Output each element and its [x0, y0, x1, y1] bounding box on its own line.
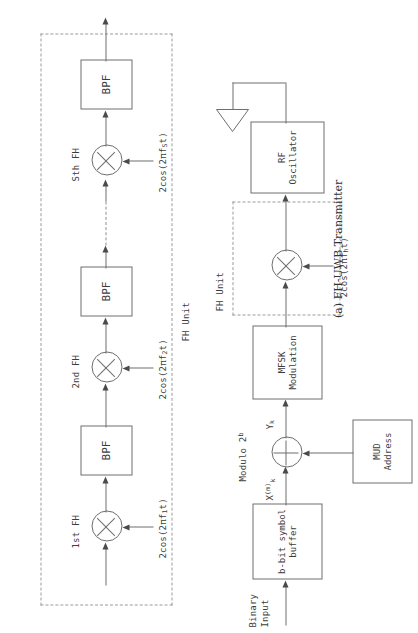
antenna-icon: [214, 105, 250, 133]
rf-to-antenna-wire-v: [232, 82, 286, 83]
fh-stage-1-lo-wire: [127, 526, 153, 527]
fh-stage-s-lo-wire: [127, 160, 153, 161]
mfsk-label-line2: Modulation: [287, 335, 298, 389]
buffer-label-line2: buffer: [287, 525, 298, 558]
los-suffix: t): [157, 132, 167, 143]
rf-to-antenna-wire-h: [285, 83, 286, 123]
fh-stage-1-to-2-arrowhead: [102, 383, 108, 390]
fh-stage-s-to-bpf-arrowhead: [102, 110, 108, 117]
fh-stage-s-name: Sth FH: [70, 147, 80, 181]
fh-stage-s-bpf-block: BPF: [80, 59, 132, 109]
binary-input-label-line2: Input: [259, 599, 269, 627]
los-pi: π: [157, 153, 167, 159]
fh-unit-big-title: FH Unit: [180, 302, 190, 341]
los-f: f: [157, 147, 167, 153]
lo1-f: f: [157, 513, 167, 519]
yk-base: Y: [264, 423, 274, 429]
los-prefix: 2cos(2: [157, 158, 167, 192]
binary-input-wire: [285, 585, 286, 625]
buffer-to-adder-wire: [285, 469, 286, 505]
lo2-pi: π: [157, 360, 167, 366]
fh-stage-1-to-bpf-arrowhead: [102, 476, 108, 483]
fh-stage-2-bpf-block: BPF: [80, 266, 132, 316]
modulo-text: Modulo 2: [237, 436, 247, 481]
mud-to-adder-arrowhead: [302, 450, 309, 456]
rf-label-line1: RF: [276, 152, 287, 163]
adder-plus-vertical: [273, 452, 298, 453]
fh-stage-s-lo-arrowhead: [122, 158, 129, 164]
diagram-canvas: Binary Input b-bit symbol buffer X(m)k M…: [0, 0, 418, 633]
mixer-to-rf-wire: [285, 199, 286, 251]
fh-stage-1-name: 1st FH: [70, 514, 80, 548]
figure-caption: (a) FH-UWB Transmitter: [332, 180, 345, 318]
lo1-suffix: t): [157, 498, 167, 509]
signal-xk-label: X(m)k: [263, 478, 276, 500]
fh-stage-s-to-bpf-wire: [105, 114, 106, 146]
fh-ellipsis-arrowhead-left: [102, 245, 108, 252]
mud-label-line1: MUD: [371, 443, 382, 459]
fh-stage-1-lo-label: 2cos(2πf1t): [157, 498, 169, 558]
lo1-pi: π: [157, 519, 167, 525]
b-bit-symbol-buffer-block: b-bit symbol buffer: [252, 503, 322, 579]
rotated-figure-container: Binary Input b-bit symbol buffer X(m)k M…: [0, 0, 418, 633]
fh-stage-2-to-bpf-arrowhead: [102, 317, 108, 324]
fh-ellipsis-wire-left: [105, 250, 106, 268]
figure-page: Binary Input b-bit symbol buffer X(m)k M…: [0, 0, 418, 633]
fh-stage-2-to-bpf-wire: [105, 321, 106, 353]
lo1-prefix: 2cos(2: [157, 524, 167, 558]
buffer-label-line1: b-bit symbol: [276, 508, 287, 573]
fh-stage-continuation-dashes: [105, 201, 106, 245]
binary-input-label-line1: Binary: [247, 593, 257, 627]
fh-stage-1-to-bpf-wire: [105, 480, 106, 512]
xk-sup: (m): [263, 482, 271, 494]
fh-chain-input-arrowhead: [102, 542, 108, 549]
fh-stage-1-to-2-wire: [105, 387, 106, 427]
modulo-adder-label: Modulo 2b: [236, 432, 247, 481]
fh-stage-2-name: 2nd FH: [70, 354, 80, 388]
binary-input-arrowhead: [282, 580, 288, 587]
fh-chain-output-wire: [105, 21, 106, 61]
fh-stage-2-lo-label: 2cos(2πf2t): [157, 339, 169, 399]
mud-address-block: MUD Address: [352, 419, 412, 483]
lo2-sub: 2: [161, 350, 169, 354]
xk-base: X: [264, 494, 274, 500]
fh-chain-output-arrowhead: [102, 17, 108, 24]
mud-label-line2: Address: [382, 432, 393, 470]
fh-stage-1-bpf-block: BPF: [80, 425, 132, 475]
adder-to-mfsk-arrowhead: [282, 399, 288, 406]
signal-yk-label: Yk: [264, 419, 276, 429]
rf-label-line2: Oscillator: [287, 130, 298, 184]
lo2-suffix: t): [157, 339, 167, 350]
mfsk-label-line1: MFSK: [276, 351, 287, 373]
fh-stage-s-lo-label: 2cos(2πfSt): [157, 132, 169, 192]
lo1-sub: 1: [161, 509, 169, 513]
modulo-adder-circle: [271, 436, 302, 467]
fh-unit-small-title: FH Unit: [214, 272, 224, 311]
fh-stage-2-lo-arrowhead: [122, 365, 129, 371]
rf-oscillator-block: RF Oscillator: [250, 121, 324, 193]
fh-small-lo-arrowhead: [302, 263, 309, 269]
fh-ellipsis-arrowhead-right: [102, 179, 108, 186]
fh-stage-1-lo-arrowhead: [122, 524, 129, 530]
modulo-exponent: b: [236, 432, 244, 436]
fh-small-lo-wire: [307, 265, 333, 266]
mud-to-adder-wire: [307, 452, 353, 453]
xk-sub: k: [268, 478, 276, 482]
lo2-f: f: [157, 354, 167, 360]
fh-stage-2-lo-wire: [127, 367, 153, 368]
fh-chain-input-wire: [105, 547, 106, 585]
yk-sub: k: [268, 419, 276, 423]
los-sub: S: [161, 143, 169, 147]
adder-to-mfsk-wire: [285, 402, 286, 438]
lo2-prefix: 2cos(2: [157, 365, 167, 399]
mfsk-modulation-block: MFSK Modulation: [252, 325, 322, 399]
mixer-to-rf-arrowhead: [282, 194, 288, 201]
